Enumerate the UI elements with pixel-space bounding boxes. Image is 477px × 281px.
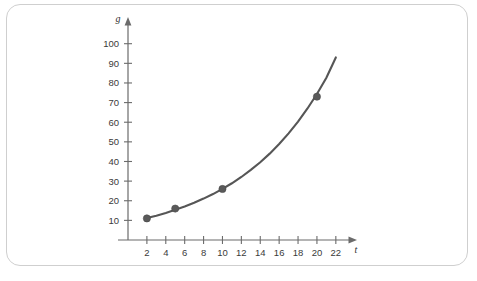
- y-tick-label: 40: [108, 156, 119, 167]
- data-point-marker: [219, 185, 226, 192]
- y-tick-label: 100: [103, 38, 119, 49]
- y-tick-label: 10: [108, 215, 119, 226]
- x-tick-label: 12: [236, 247, 247, 258]
- y-tick-label: 20: [108, 195, 119, 206]
- y-tick-label: 70: [108, 97, 119, 108]
- y-axis-arrowhead: [125, 17, 132, 26]
- x-axis-label: t: [355, 244, 358, 255]
- x-tick-label: 6: [182, 247, 187, 258]
- chart-plot-area: g t 102030405060708090100 24681012141618…: [0, 0, 477, 281]
- x-axis-ticks: 246810121416182022: [144, 236, 341, 258]
- data-point-marker: [172, 205, 179, 212]
- data-point-marker: [313, 93, 320, 100]
- data-point-markers: [143, 93, 320, 222]
- data-point-marker: [143, 215, 150, 222]
- x-tick-label: 8: [201, 247, 206, 258]
- x-tick-label: 20: [312, 247, 323, 258]
- x-axis-arrowhead: [349, 237, 358, 244]
- exponential-growth-chart: g t 102030405060708090100 24681012141618…: [0, 0, 477, 281]
- y-tick-label: 60: [108, 117, 119, 128]
- y-axis-label: g: [116, 13, 121, 24]
- x-tick-label: 18: [293, 247, 304, 258]
- y-tick-label: 80: [108, 77, 119, 88]
- x-tick-label: 10: [217, 247, 228, 258]
- x-tick-label: 2: [144, 247, 149, 258]
- x-tick-label: 14: [255, 247, 266, 258]
- y-tick-label: 50: [108, 136, 119, 147]
- y-tick-label: 90: [108, 58, 119, 69]
- y-tick-label: 30: [108, 176, 119, 187]
- x-tick-label: 22: [331, 247, 342, 258]
- x-tick-label: 4: [163, 247, 168, 258]
- x-tick-label: 16: [274, 247, 285, 258]
- exponential-curve: [147, 57, 336, 218]
